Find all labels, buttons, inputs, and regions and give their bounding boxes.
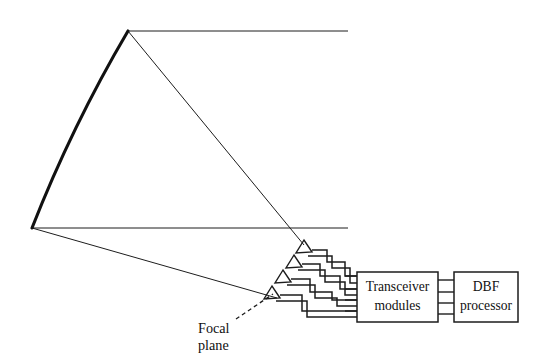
incident-ray-group (32, 31, 348, 228)
transceiver-label-line1: Transceiver (366, 279, 430, 294)
feed-horn-1 (296, 240, 312, 253)
dbf-label-line1: DBF (473, 279, 500, 294)
feed-horn-2 (286, 255, 302, 268)
reflected-ray-group (32, 31, 304, 298)
lower-reflected-ray (32, 228, 277, 298)
focal-plane-leader-line (236, 294, 273, 319)
focal-plane-label-line1: Focal (198, 320, 230, 336)
focal-plane-label: Focal plane (198, 320, 230, 353)
dbf-processor-box[interactable]: DBF processor (454, 272, 518, 322)
dbf-label-line2: processor (460, 298, 513, 313)
interbox-bus (438, 280, 454, 314)
diagram-root: Transceiver modules DBF processor Focal … (0, 0, 543, 363)
parabolic-reflector (32, 31, 128, 228)
transceiver-modules-box[interactable]: Transceiver modules (357, 272, 438, 322)
upper-reflected-ray (128, 31, 304, 245)
focal-plane-label-line2: plane (198, 337, 229, 353)
feed-horn-3 (275, 270, 291, 283)
waveguide-group (276, 250, 357, 317)
waveguide-4-return (276, 301, 357, 317)
transceiver-label-line2: modules (374, 298, 420, 313)
antenna-system-diagram: Transceiver modules DBF processor Focal … (0, 0, 543, 363)
